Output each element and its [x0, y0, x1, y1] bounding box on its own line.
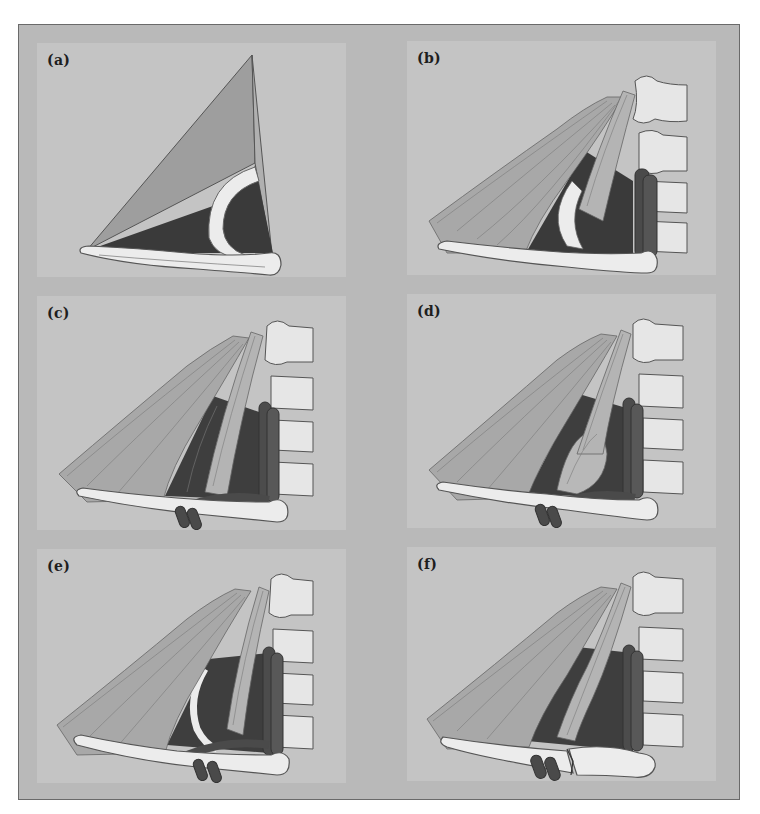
panel-c: (c): [37, 296, 346, 530]
panel-b-illustration: [407, 41, 716, 275]
panel-e: (e): [37, 549, 346, 783]
panel-label-e: (e): [47, 558, 70, 574]
panel-label-c: (c): [47, 305, 70, 321]
panel-c-illustration: [37, 296, 346, 530]
panel-a: (a): [37, 43, 346, 277]
figure-frame: (a): [18, 24, 740, 800]
panel-d-illustration: [407, 294, 716, 528]
panel-f-illustration: [407, 547, 716, 781]
panel-label-a: (a): [47, 52, 70, 68]
panel-label-f: (f): [417, 556, 437, 572]
panel-b: (b): [407, 41, 716, 275]
panel-label-b: (b): [417, 50, 441, 66]
panel-d: (d): [407, 294, 716, 528]
panel-e-illustration: [37, 549, 346, 783]
panel-label-d: (d): [417, 303, 441, 319]
panel-f: (f): [407, 547, 716, 781]
panel-a-illustration: [37, 43, 346, 277]
